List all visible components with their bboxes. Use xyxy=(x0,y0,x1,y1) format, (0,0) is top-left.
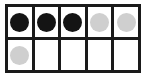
counter-dot-r1c2 xyxy=(37,13,56,32)
counter-dot-r2c4 xyxy=(90,46,109,65)
counter-dot-r1c4 xyxy=(90,13,109,32)
ten-frame-cell-r1c4[interactable] xyxy=(88,7,115,37)
ten-frame-cell-r1c3[interactable] xyxy=(61,7,88,37)
counter-dot-r2c2 xyxy=(37,46,56,65)
ten-frame-grid xyxy=(5,4,141,73)
ten-frame-cell-r2c3[interactable] xyxy=(61,40,88,70)
ten-frame-row-bottom xyxy=(8,37,138,70)
ten-frame-figure xyxy=(0,0,148,77)
counter-dot-r1c1 xyxy=(10,13,29,32)
counter-dot-r2c1 xyxy=(10,46,29,65)
counter-dot-r1c3 xyxy=(63,13,82,32)
counter-dot-r1c5 xyxy=(117,13,136,32)
ten-frame-cell-r2c5[interactable] xyxy=(114,40,138,70)
ten-frame-cell-r1c2[interactable] xyxy=(35,7,62,37)
counter-dot-r2c3 xyxy=(63,46,82,65)
ten-frame-cell-r2c4[interactable] xyxy=(88,40,115,70)
counter-dot-r2c5 xyxy=(117,46,136,65)
ten-frame-cell-r2c2[interactable] xyxy=(35,40,62,70)
ten-frame-cell-r1c5[interactable] xyxy=(114,7,138,37)
ten-frame-cell-r2c1[interactable] xyxy=(8,40,35,70)
ten-frame-row-top xyxy=(8,7,138,37)
ten-frame-cell-r1c1[interactable] xyxy=(8,7,35,37)
